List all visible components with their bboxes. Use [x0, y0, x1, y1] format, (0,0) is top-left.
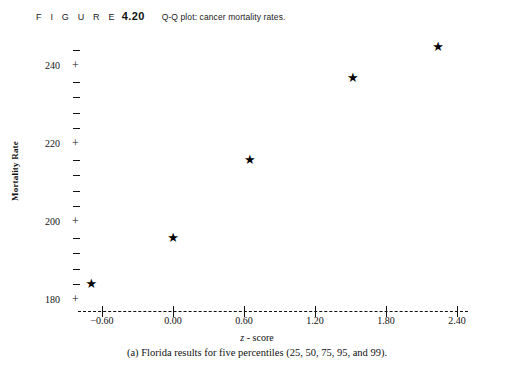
- y-axis-minor-tick: [73, 175, 80, 176]
- y-axis-tick-glyph: +: [72, 59, 79, 71]
- x-axis-line: [78, 311, 468, 312]
- data-point-star: ★: [244, 153, 256, 166]
- y-axis-minor-tick: [73, 50, 80, 51]
- x-axis-title: z - score: [0, 332, 514, 343]
- y-axis-tick-label: 240: [45, 60, 60, 72]
- x-axis-tick-label: 1.20: [285, 315, 345, 326]
- y-axis-minor-tick: [73, 206, 80, 207]
- y-axis-tick-glyph: +: [72, 293, 79, 305]
- data-point-star: ★: [167, 231, 179, 244]
- y-axis-minor-tick: [73, 284, 80, 285]
- y-axis-tick-glyph: +: [72, 215, 79, 227]
- y-axis-minor-tick: [73, 253, 80, 254]
- y-axis-minor-tick: [73, 82, 80, 83]
- figure-page: F I G U R E 4.20 Q-Q plot: cancer mortal…: [0, 0, 514, 371]
- y-axis-title: Mortality Rate: [10, 126, 20, 216]
- y-axis-minor-tick: [73, 160, 80, 161]
- y-axis-tick-label: 180: [45, 294, 60, 306]
- y-axis-minor-tick: [73, 97, 80, 98]
- y-axis-minor-tick: [73, 128, 80, 129]
- x-axis-tick-label: 2.40: [427, 315, 487, 326]
- y-axis-tick-glyph: +: [72, 137, 79, 149]
- y-axis-tick-label: 200: [45, 216, 60, 228]
- x-axis-title-text: - score: [244, 332, 273, 343]
- y-axis-minor-tick: [73, 113, 80, 114]
- x-axis-tick-label: 0.00: [143, 315, 203, 326]
- scatter-plot: Mortality Rate 240+220+200+180+ −0.600.0…: [0, 0, 514, 371]
- y-axis-minor-tick: [73, 238, 80, 239]
- data-point-star: ★: [432, 40, 444, 53]
- y-axis-tick-label: 220: [45, 138, 60, 150]
- x-axis-tick-label: 1.80: [356, 315, 416, 326]
- data-point-star: ★: [86, 278, 98, 291]
- x-axis-tick-label: 0.60: [214, 315, 274, 326]
- y-axis-minor-tick: [73, 269, 80, 270]
- figure-bottom-caption: (a) Florida results for five percentiles…: [0, 347, 514, 358]
- y-axis-minor-tick: [73, 191, 80, 192]
- data-point-star: ★: [347, 71, 359, 84]
- x-axis-tick-label: −0.60: [72, 315, 132, 326]
